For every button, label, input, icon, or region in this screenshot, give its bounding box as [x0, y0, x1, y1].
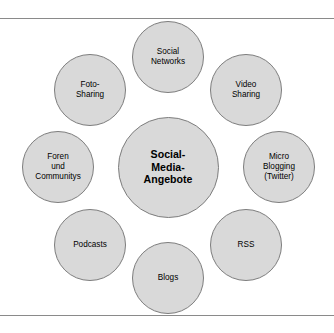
bottom-divider-rule: [0, 315, 334, 316]
bubble-label-rss: RSS: [233, 240, 260, 250]
bubble-label-blogs: Blogs: [153, 273, 183, 283]
diagram-frame: Social NetworksVideo SharingMicro Bloggi…: [0, 0, 334, 333]
bubble-social-media-angebote[interactable]: Social- Media- Angebote: [118, 117, 219, 218]
bubble-social-networks[interactable]: Social Networks: [132, 21, 204, 93]
bubble-foren-und-communitys[interactable]: Foren und Communitys: [22, 131, 94, 203]
bubble-foto-sharing[interactable]: Foto- Sharing: [54, 54, 126, 126]
bubble-label-social-networks: Social Networks: [146, 47, 190, 66]
bubble-label-foto-sharing: Foto- Sharing: [71, 80, 109, 99]
bubble-rss[interactable]: RSS: [210, 209, 282, 281]
bubble-blogs[interactable]: Blogs: [132, 242, 204, 314]
bubble-label-video-sharing: Video Sharing: [227, 80, 265, 99]
bubble-video-sharing[interactable]: Video Sharing: [210, 54, 282, 126]
bubble-micro-blogging-twitter[interactable]: Micro Blogging (Twitter): [243, 131, 315, 203]
bubble-podcasts[interactable]: Podcasts: [54, 209, 126, 281]
bubble-label-foren-und-communitys: Foren und Communitys: [30, 152, 86, 181]
bubble-label-podcasts: Podcasts: [68, 240, 112, 250]
bubble-label-micro-blogging-twitter: Micro Blogging (Twitter): [258, 152, 300, 181]
bubble-stage: Social NetworksVideo SharingMicro Bloggi…: [0, 19, 334, 315]
bubble-label-social-media-angebote: Social- Media- Angebote: [139, 148, 198, 186]
